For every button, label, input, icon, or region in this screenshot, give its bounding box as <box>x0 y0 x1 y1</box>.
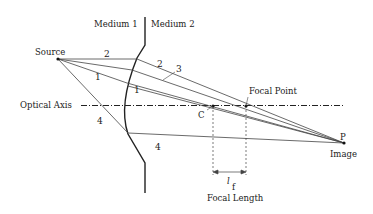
focal-length-subscript: f <box>232 182 236 192</box>
image-label: Image <box>330 149 357 159</box>
source-point <box>56 57 59 60</box>
refracted-rays <box>127 59 344 143</box>
focal-point-leader <box>246 97 248 106</box>
ray-1-in-number: 1 <box>95 72 101 82</box>
ray-4-out-number: 4 <box>155 142 161 152</box>
ray-2-refracted <box>137 59 344 143</box>
p-label: P <box>340 132 346 142</box>
source-label: Source <box>35 47 65 57</box>
refraction-diagram: Medium 1 Medium 2 Source Optical Axis Fo… <box>0 0 373 214</box>
focal-length-symbol: l <box>227 176 230 186</box>
ray-3-leader <box>163 72 175 80</box>
ray-3-refracted <box>132 70 344 143</box>
ray-3-number: 3 <box>176 64 182 74</box>
medium-1-label: Medium 1 <box>94 19 138 29</box>
ray-2-out-number: 2 <box>157 59 163 69</box>
medium-2-label: Medium 2 <box>151 19 195 29</box>
focal-length-arrow <box>213 170 246 174</box>
focal-point-label: Focal Point <box>249 86 297 96</box>
ray-3-incident <box>58 59 132 70</box>
ray-4-in-number: 4 <box>97 116 103 126</box>
c-label: C <box>198 110 205 120</box>
focal-length-label: Focal Length <box>207 193 264 203</box>
ray-4-incident <box>58 59 128 133</box>
ray-1-out-number: 1 <box>134 85 140 95</box>
ray-1-incident <box>58 59 127 83</box>
optical-axis-label: Optical Axis <box>20 100 72 110</box>
ray-2-in-number: 2 <box>104 49 110 59</box>
